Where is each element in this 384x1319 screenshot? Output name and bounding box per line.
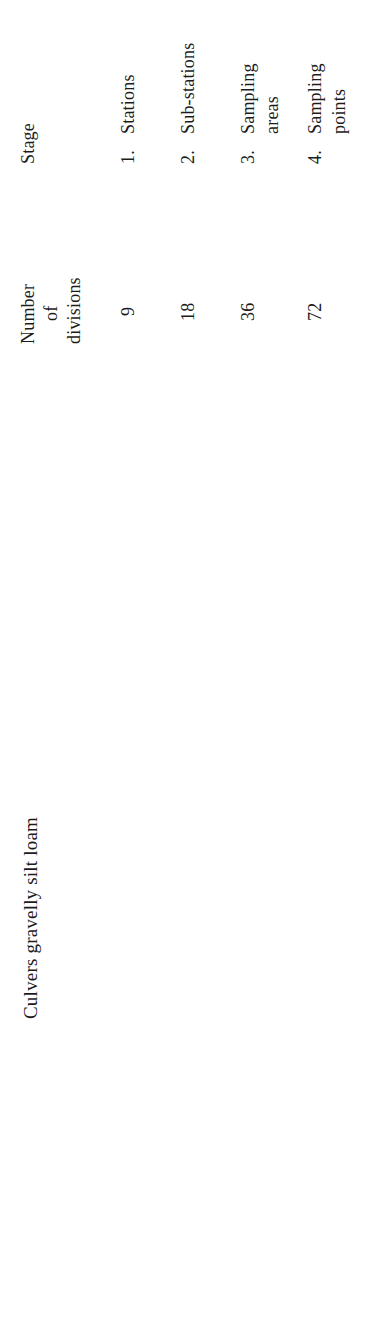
stage-name-4a: Sampling: [305, 63, 326, 134]
divisions-header-line2: of: [41, 306, 62, 321]
divisions-value-4: 72: [305, 303, 326, 321]
divisions-value-3: 36: [238, 303, 259, 321]
figure-title: Culvers gravelly silt loam: [20, 817, 42, 1019]
stage-name-2: Sub-stations: [178, 43, 199, 134]
stage-name-3b: areas: [262, 96, 283, 134]
divisions-header-line3: divisions: [64, 277, 85, 344]
divisions-header-line1: Number: [18, 284, 39, 344]
figure-page: Culvers gravelly silt loam Number of div…: [0, 0, 384, 1319]
stage-index-1: 1.: [118, 150, 139, 164]
stage-index-2: 2.: [178, 150, 199, 164]
stage-name-1: Stations: [118, 74, 139, 134]
stage-index-4: 4.: [305, 150, 326, 164]
stage-index-3: 3.: [238, 150, 259, 164]
rotated-figure-container: Culvers gravelly silt loam Number of div…: [0, 0, 384, 1319]
stage-name-4b: points: [329, 89, 350, 134]
divisions-value-1: 9: [118, 307, 139, 316]
divisions-value-2: 18: [178, 303, 199, 321]
stage-header: Stage: [18, 123, 39, 164]
stage-name-3a: Sampling: [238, 63, 259, 134]
